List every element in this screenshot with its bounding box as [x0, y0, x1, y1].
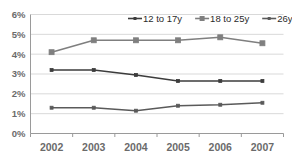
data-point-marker: [260, 41, 265, 46]
y-tick-label: 2%: [12, 88, 26, 99]
data-point-marker: [50, 69, 53, 72]
data-point-marker: [219, 79, 222, 82]
data-point-marker: [177, 104, 180, 107]
data-point-marker: [92, 106, 95, 109]
data-point-marker: [218, 35, 223, 40]
data-point-marker: [219, 103, 222, 106]
legend-label[interactable]: 12 to 17y: [143, 13, 182, 24]
legend-marker-sample: [200, 16, 205, 21]
y-tick-label: 4%: [12, 49, 26, 60]
x-tick-label: 2006: [209, 141, 233, 153]
x-tick-label: 2002: [40, 141, 64, 153]
data-point-marker: [261, 101, 264, 104]
y-tick-label: 0%: [12, 128, 26, 139]
data-point-marker: [177, 79, 180, 82]
x-tick-label: 2004: [124, 141, 148, 153]
x-tick-label: 2007: [251, 141, 275, 153]
legend-marker-sample: [134, 17, 137, 20]
legend-label[interactable]: 18 to 25y: [210, 13, 249, 24]
data-point-marker: [134, 109, 137, 112]
data-point-marker: [49, 50, 54, 55]
data-point-marker: [134, 73, 137, 76]
y-tick-label: 1%: [12, 108, 26, 119]
x-tick-label: 2005: [166, 141, 190, 153]
data-point-marker: [133, 38, 138, 43]
y-tick-label: 5%: [12, 29, 26, 40]
x-tick-label: 2003: [82, 141, 106, 153]
y-tick-label: 3%: [12, 68, 26, 79]
data-point-marker: [91, 38, 96, 43]
data-point-marker: [261, 79, 264, 82]
line-chart-container: 6%5%4%3%2%1%0% 200220032004200520062007 …: [0, 0, 292, 162]
legend-marker-sample: [268, 17, 271, 20]
data-point-marker: [176, 38, 181, 43]
data-point-marker: [92, 69, 95, 72]
legend-label[interactable]: 26y & >: [277, 13, 292, 24]
y-tick-label: 6%: [12, 9, 26, 20]
data-point-marker: [50, 106, 53, 109]
chart-canvas: 6%5%4%3%2%1%0% 200220032004200520062007 …: [0, 0, 292, 162]
